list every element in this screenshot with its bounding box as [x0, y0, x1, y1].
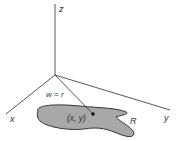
point-xy [91, 112, 95, 116]
x-axis-label: x [9, 114, 15, 124]
segment-label: w = r [46, 90, 64, 99]
coordinate-diagram: z x y w = r (x, y) R [0, 0, 176, 141]
y-axis-label: y [163, 113, 169, 123]
z-axis-label: z [58, 4, 64, 14]
region-label: R [130, 116, 137, 126]
point-label: (x, y) [67, 113, 86, 123]
